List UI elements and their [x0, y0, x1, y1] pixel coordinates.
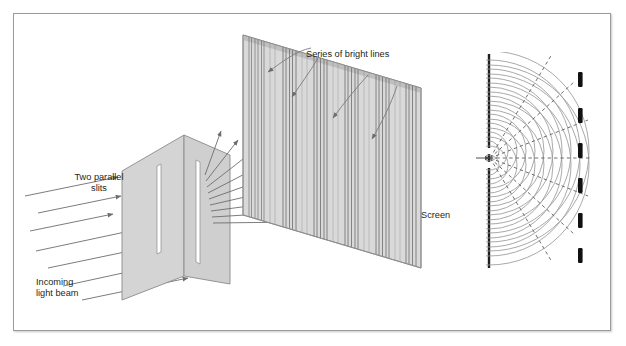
nodal-dashed-lines: [490, 54, 592, 262]
figure-canvas: Two parallel slits Incoming light beam S…: [0, 0, 626, 346]
label-screen: Screen: [421, 210, 450, 221]
projection-screen: [243, 20, 421, 300]
label-two-parallel-slits: Two parallel slits: [60, 172, 138, 194]
slit-left: [157, 164, 161, 254]
two-slit-plate: [122, 135, 230, 300]
slit-right: [196, 160, 200, 264]
label-incoming-light-beam: Incoming light beam: [36, 277, 100, 299]
label-series-of-bright-lines: Series of bright lines: [306, 49, 389, 60]
